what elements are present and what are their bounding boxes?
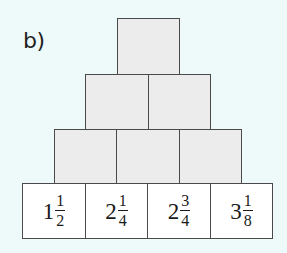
fraction: 1 8 — [243, 193, 253, 229]
pyramid-brick-r3-c3[interactable] — [179, 129, 242, 184]
fraction: 1 2 — [55, 193, 65, 229]
pyramid-brick-r4-c3: 2 3 4 — [147, 183, 211, 239]
pyramid-brick-r3-c2[interactable] — [116, 129, 180, 184]
pyramid-brick-r1-c1[interactable] — [117, 18, 180, 75]
numerator: 3 — [180, 193, 190, 211]
numerator: 1 — [55, 193, 65, 211]
pyramid-brick-r2-c1[interactable] — [85, 74, 149, 130]
part-label: b) — [23, 28, 45, 53]
pyramid-brick-r2-c2[interactable] — [148, 74, 211, 130]
fraction: 3 4 — [180, 193, 190, 229]
numerator: 1 — [243, 193, 253, 211]
fraction: 1 4 — [118, 193, 128, 229]
mixed-number: 2 1 4 — [105, 193, 128, 229]
mixed-number: 3 1 8 — [230, 193, 253, 229]
pyramid-brick-r4-c1: 1 1 2 — [22, 183, 86, 239]
denominator: 8 — [244, 211, 252, 229]
pyramid-brick-r4-c4: 3 1 8 — [210, 183, 273, 239]
denominator: 2 — [56, 211, 64, 229]
pyramid-brick-r4-c2: 2 1 4 — [85, 183, 148, 239]
mixed-number: 1 1 2 — [43, 193, 66, 229]
whole-part: 2 — [105, 200, 117, 223]
pyramid-brick-r3-c1[interactable] — [54, 129, 117, 184]
whole-part: 1 — [43, 200, 55, 223]
mixed-number: 2 3 4 — [168, 193, 191, 229]
denominator: 4 — [181, 211, 189, 229]
whole-part: 2 — [168, 200, 180, 223]
whole-part: 3 — [230, 200, 242, 223]
numerator: 1 — [118, 193, 128, 211]
denominator: 4 — [119, 211, 127, 229]
